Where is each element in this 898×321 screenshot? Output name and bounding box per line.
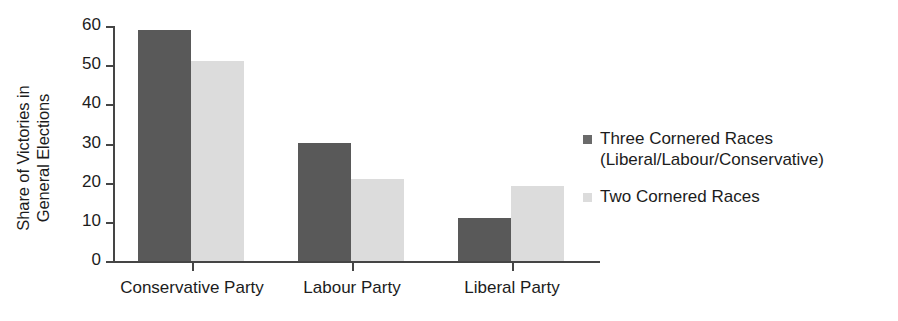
y-axis-tick-label: 50 — [82, 54, 101, 74]
legend-item-two-cornered-races: Two Cornered Races — [583, 186, 893, 207]
chart-legend: Three Cornered Races (Liberal/Labour/Con… — [583, 128, 893, 223]
bar-liberal-three-cornered — [458, 218, 511, 261]
x-axis-category-label: Liberal Party — [447, 278, 577, 298]
y-axis-tick: 30 — [106, 144, 114, 146]
y-axis-tick: 50 — [106, 65, 114, 67]
legend-swatch-icon — [583, 135, 592, 144]
legend-item-three-cornered-races: Three Cornered Races (Liberal/Labour/Con… — [583, 128, 893, 170]
x-axis-line — [113, 261, 600, 263]
legend-item-label: Two Cornered Races — [600, 186, 893, 207]
y-axis-tick-label: 40 — [82, 93, 101, 113]
bar-conservative-two-cornered — [191, 61, 244, 261]
y-axis-tick: 40 — [106, 104, 114, 106]
y-axis-tick-label: 0 — [92, 250, 101, 270]
legend-item-label: Three Cornered Races (Liberal/Labour/Con… — [600, 128, 893, 170]
grouped-bar-chart: Share of Victories in General Elections … — [0, 0, 898, 321]
y-axis-title: Share of Victories in General Elections — [13, 33, 53, 283]
x-axis-tick — [192, 263, 194, 271]
x-axis-tick — [512, 263, 514, 271]
y-axis-tick-label: 30 — [82, 133, 101, 153]
x-axis-tick — [352, 263, 354, 271]
plot-area: 60 50 40 30 20 10 0 — [113, 26, 600, 263]
y-axis-tick-label: 60 — [82, 15, 101, 35]
legend-swatch-icon — [583, 193, 592, 202]
bar-labour-three-cornered — [298, 143, 351, 261]
y-axis-tick-label: 10 — [82, 211, 101, 231]
bar-conservative-three-cornered — [138, 30, 191, 261]
bar-liberal-two-cornered — [511, 186, 564, 261]
x-axis-category-label: Conservative Party — [97, 278, 287, 298]
x-axis-category-label: Labour Party — [287, 278, 417, 298]
bar-labour-two-cornered — [351, 179, 404, 261]
y-axis-tick: 20 — [106, 183, 114, 185]
y-axis-tick: 60 — [106, 26, 114, 28]
y-axis-tick-label: 20 — [82, 172, 101, 192]
y-axis-tick: 0 — [106, 261, 114, 263]
y-axis-tick: 10 — [106, 222, 114, 224]
